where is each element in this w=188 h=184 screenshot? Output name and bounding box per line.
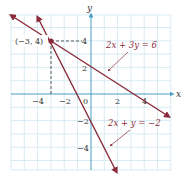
eq2-pointer xyxy=(110,130,130,146)
eq2-label: 2x + y = −2 xyxy=(107,118,161,128)
intersection-label: (−3, 4) xyxy=(15,37,43,46)
tick-y-minus4: −4 xyxy=(77,144,89,153)
tick-x-2: 2 xyxy=(115,97,120,106)
tick-x-minus4: −4 xyxy=(32,97,44,106)
tick-y-4: 4 xyxy=(82,37,87,46)
eq1-label: 2x + 3y = 6 xyxy=(105,40,157,50)
graph: x y −4 −2 0 2 4 4 2 −2 −4 (−3, 4) 2x + 3… xyxy=(0,0,188,184)
tick-y-2: 2 xyxy=(82,64,87,73)
tick-y-minus2: −2 xyxy=(77,117,89,126)
intersection-point xyxy=(48,38,53,43)
tick-x-minus2: −2 xyxy=(59,97,71,106)
tick-origin: 0 xyxy=(83,97,88,106)
y-axis-label: y xyxy=(86,3,93,13)
x-axis-label: x xyxy=(176,89,181,99)
